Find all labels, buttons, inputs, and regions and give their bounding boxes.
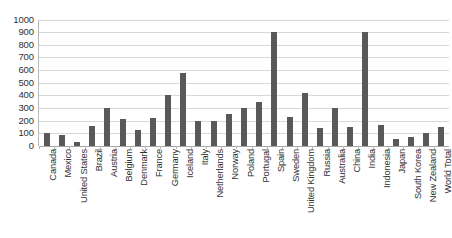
bar — [287, 117, 293, 146]
y-tick-label: 800 — [0, 40, 34, 50]
y-tick-label: 1000 — [0, 15, 34, 25]
x-tick-label: Indonesia — [383, 149, 392, 188]
bar — [59, 135, 65, 146]
bar-slot — [297, 20, 312, 147]
bar-slot — [130, 20, 145, 147]
y-tick-label: 200 — [0, 116, 34, 126]
bar-slot — [115, 20, 130, 147]
bar-slot — [39, 20, 54, 147]
bar — [120, 119, 126, 146]
bar — [438, 127, 444, 146]
plot-area — [38, 20, 449, 147]
bar-slot — [267, 20, 282, 147]
x-tick-label: United Kingdom — [307, 149, 316, 213]
bar-slot — [54, 20, 69, 147]
bars-group — [39, 20, 449, 147]
bar-slot — [328, 20, 343, 147]
bar-slot — [191, 20, 206, 147]
bar — [165, 95, 171, 146]
bar — [211, 121, 217, 146]
bar-slot — [221, 20, 236, 147]
bar-slot — [160, 20, 175, 147]
bar-slot — [419, 20, 434, 147]
bar-slot — [252, 20, 267, 147]
bar — [180, 73, 186, 146]
y-tick-label: 400 — [0, 90, 34, 100]
x-tick-label: Russia — [323, 149, 332, 177]
x-tick-label: India — [368, 149, 377, 168]
bar-slot — [343, 20, 358, 147]
x-tick-label: Norway — [231, 149, 240, 180]
y-tick-label: 600 — [0, 65, 34, 75]
bar-slot — [69, 20, 84, 147]
bar-slot — [312, 20, 327, 147]
bar-chart: 10009008007006005004003002001000 CanadaM… — [0, 0, 452, 238]
bar-slot — [373, 20, 388, 147]
y-tick-label: 500 — [0, 78, 34, 88]
bar — [256, 102, 262, 146]
x-tick-label: South Korea — [414, 149, 423, 199]
x-tick-label: World Total — [444, 149, 452, 194]
bar — [408, 137, 414, 146]
bar — [378, 125, 384, 147]
bar-slot — [358, 20, 373, 147]
bar-slot — [388, 20, 403, 147]
bar-slot — [236, 20, 251, 147]
x-tick-label: United States — [80, 149, 89, 203]
x-tick-label: Spain — [277, 149, 286, 172]
bar — [135, 130, 141, 146]
bar — [302, 93, 308, 146]
x-tick-label: Iceland — [186, 149, 195, 178]
bar-slot — [85, 20, 100, 147]
y-tick-label: 900 — [0, 27, 34, 37]
bar — [241, 108, 247, 146]
y-tick-label: 300 — [0, 103, 34, 113]
y-tick-label: 0 — [0, 141, 34, 151]
x-tick-label: Sweden — [292, 149, 301, 182]
bar — [44, 133, 50, 146]
x-tick-label: Germany — [171, 149, 180, 186]
bar — [393, 139, 399, 146]
bar-slot — [100, 20, 115, 147]
x-tick-label: Poland — [247, 149, 256, 177]
bar-slot — [403, 20, 418, 147]
bar — [150, 118, 156, 146]
bar — [74, 142, 80, 146]
bar-slot — [282, 20, 297, 147]
x-tick-label: Italy — [201, 149, 210, 165]
bar — [195, 121, 201, 146]
x-tick-label: Belgium — [125, 149, 134, 182]
y-tick-label: 100 — [0, 128, 34, 138]
bar-slot — [434, 20, 449, 147]
bar — [423, 133, 429, 146]
bar — [226, 114, 232, 146]
x-tick-label: China — [353, 149, 362, 173]
x-tick-label: Japan — [398, 149, 407, 174]
bar — [271, 32, 277, 146]
bar — [104, 108, 110, 146]
x-tick-label: Portugal — [262, 149, 271, 182]
x-tick-label: Australia — [338, 149, 347, 184]
bar — [89, 126, 95, 146]
x-tick-label: Austria — [110, 149, 119, 177]
bar-slot — [176, 20, 191, 147]
bar — [332, 108, 338, 146]
x-tick-label: Netherlands — [216, 149, 225, 197]
bar — [317, 128, 323, 146]
y-tick-label: 700 — [0, 52, 34, 62]
x-tick-label: France — [155, 149, 164, 177]
x-axis: CanadaMexicoUnited StatesBrazilAustriaBe… — [38, 149, 448, 238]
x-tick-label: Denmark — [140, 149, 149, 186]
y-axis: 10009008007006005004003002001000 — [0, 14, 34, 146]
x-tick-label: New Zealand — [429, 149, 438, 202]
x-tick-label: Brazil — [95, 149, 104, 171]
bar — [362, 32, 368, 146]
x-tick-label: Mexico — [64, 149, 73, 178]
bar — [347, 127, 353, 146]
bar-slot — [145, 20, 160, 147]
bar-slot — [206, 20, 221, 147]
x-tick-label: Canada — [49, 149, 58, 181]
